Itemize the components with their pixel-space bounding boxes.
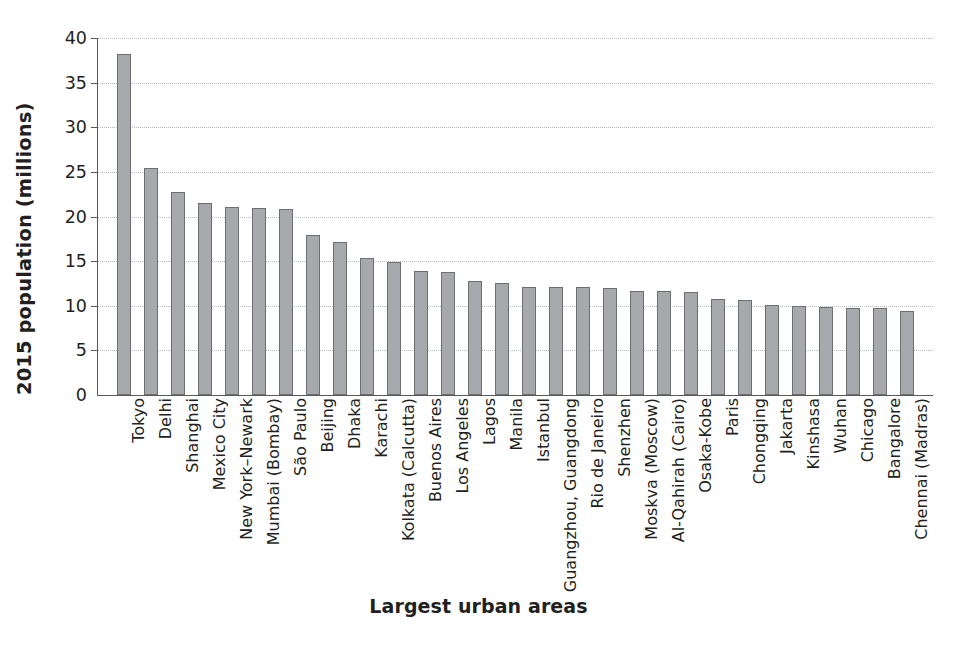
bar [738,300,752,395]
x-tick-label-text: Mumbai (Bombay) [266,398,282,545]
bar [198,203,212,395]
bar-series [98,38,933,395]
x-tick-label: Guangzhou, Guangdong [561,398,577,592]
bar [414,271,428,395]
x-tick-label-text: Moskva (Moscow) [644,398,660,540]
x-tick-label-text: Guangzhou, Guangdong [563,398,579,592]
y-tick-mark [91,127,98,128]
x-tick-label: Buenos Aires [426,398,442,502]
x-tick-label-text: Chongqing [752,398,768,484]
x-tick-label-text: Al-Qahirah (Cairo) [671,398,687,542]
bar [792,306,806,395]
x-tick-label-text: Wuhan [833,398,849,453]
bar [225,207,239,395]
bar [144,168,158,395]
x-tick-label: Beijing [318,398,334,452]
bar [252,208,266,395]
x-tick-label: Jakarta [777,398,793,454]
x-tick-label: Osaka-Kobe [696,398,712,493]
bar [171,192,185,395]
bar [630,291,644,395]
x-tick-label: Paris [723,398,739,436]
x-tick-label: Bangalore [885,398,901,479]
bar [900,311,914,395]
plot-area: 0510152025303540 [97,38,933,396]
x-tick-label: Al-Qahirah (Cairo) [669,398,685,542]
x-tick-label: Wuhan [831,398,847,453]
x-tick-label-text: Karachi [374,398,390,458]
bar [360,258,374,395]
x-axis-category-labels: TokyoDelhiShanghaiMexico CityNew York–Ne… [97,398,932,588]
bar [117,54,131,395]
x-tick-label-text: Mexico City [212,398,228,490]
y-tick-label: 25 [65,162,87,182]
x-tick-label-text: New York–Newark [239,398,255,540]
y-tick-label: 20 [65,207,87,227]
y-tick-mark [91,83,98,84]
y-tick-label: 0 [76,385,87,405]
x-tick-label-text: Buenos Aires [428,398,444,502]
x-tick-label: Kinshasa [804,398,820,470]
x-tick-label-text: Dhaka [347,398,363,449]
x-tick-label-text: Shanghai [185,398,201,473]
x-tick-label: Tokyo [129,398,145,443]
y-tick-label: 30 [65,117,87,137]
x-tick-label-text: Paris [725,398,741,436]
x-tick-label-text: Tokyo [131,398,147,443]
x-tick-label-text: Lagos [482,398,498,445]
bar [333,242,347,396]
x-tick-label: New York–Newark [237,398,253,540]
y-tick-mark [91,306,98,307]
y-tick-label: 5 [76,340,87,360]
x-tick-label-text: Jakarta [779,398,795,454]
bar [279,209,293,395]
y-tick-label: 15 [65,251,87,271]
x-tick-label: Los Angeles [453,398,469,494]
x-tick-label: Mumbai (Bombay) [264,398,280,545]
y-tick-label: 10 [65,296,87,316]
x-tick-label-text: Shenzhen [617,398,633,477]
x-tick-label: Mexico City [210,398,226,490]
x-tick-label-text: Rio de Janeiro [590,398,606,509]
bar [306,235,320,395]
x-tick-label-text: Chicago [860,398,876,462]
x-tick-label-text: Manila [509,398,525,450]
x-tick-label-text: Istanbul [536,398,552,462]
x-tick-label-text: Los Angeles [455,398,471,494]
x-tick-label-text: Beijing [320,398,336,452]
x-tick-label: Shanghai [183,398,199,473]
x-tick-label-text: Delhi [158,398,174,439]
y-tick-label: 40 [65,28,87,48]
x-tick-label-text: Bangalore [887,398,903,479]
bar [765,305,779,395]
x-tick-label: Chicago [858,398,874,462]
x-tick-label-text: São Paulo [293,398,309,476]
x-tick-label-text: Chennai (Madras) [914,398,930,540]
x-tick-label: Karachi [372,398,388,458]
bar [549,287,563,395]
y-tick-label: 35 [65,73,87,93]
x-tick-label: Lagos [480,398,496,445]
bar [846,308,860,395]
x-tick-label: Istanbul [534,398,550,462]
bar [684,292,698,395]
bar [657,291,671,395]
x-tick-label: Chongqing [750,398,766,484]
x-tick-label-text: Osaka-Kobe [698,398,714,493]
y-tick-mark [91,217,98,218]
bar [387,262,401,395]
x-tick-label: Kolkata (Calcutta) [399,398,415,541]
bar [711,299,725,395]
bar [495,283,509,395]
x-tick-label: Manila [507,398,523,450]
y-tick-mark [91,172,98,173]
y-tick-mark [91,350,98,351]
y-tick-mark [91,38,98,39]
bar [468,281,482,395]
bar [522,287,536,395]
bar [441,272,455,395]
x-axis-title: Largest urban areas [0,595,957,617]
x-tick-label-text: Kinshasa [806,398,822,470]
x-tick-label: Rio de Janeiro [588,398,604,509]
bar [873,308,887,395]
